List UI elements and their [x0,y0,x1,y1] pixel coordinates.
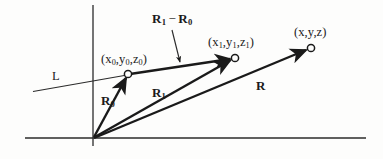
p0-open-paren: (x [101,52,112,66]
p0-mid-z: ,z [130,52,139,66]
r1-base: R [152,85,161,100]
p1-open-paren: (x [208,35,219,49]
point-marker-p1 [231,54,238,61]
r0-sub: 0 [110,99,114,109]
r0-base: R [101,93,110,108]
difference-label: R1−R0 [152,12,193,27]
difference-minus-sign: − [167,11,179,26]
difference-leader-line [172,30,180,62]
p1-close-paren: ) [250,35,254,49]
line-l-tail [33,75,130,92]
difference-r1-base: R [152,11,162,26]
line-l-label: L [52,70,60,83]
point-marker-p [307,44,314,51]
difference-r1-sub: 1 [162,17,167,27]
vector-label-r0: R0 [101,94,115,109]
point-label-p1: (x1,y1,z1) [208,36,254,51]
r-base: R [256,78,265,93]
difference-r0-sub: 0 [188,17,193,27]
p1-mid-y: ,y [223,35,233,49]
r1-sub: 1 [161,91,165,101]
point-marker-p0 [124,70,131,77]
vector-label-r: R [256,79,265,94]
vector-diagram-figure: (x0,y0,z0) (x1,y1,z1) (x,y,z) R1−R0 L R0… [0,0,383,159]
p1-mid-z: ,z [237,35,246,49]
difference-r0-base: R [178,11,188,26]
vector-label-r1: R1 [152,86,166,101]
point-label-p: (x,y,z) [294,26,327,39]
point-label-p0: (x0,y0,z0) [101,53,147,68]
p0-close-paren: ) [143,52,147,66]
p0-mid-y: ,y [116,52,126,66]
